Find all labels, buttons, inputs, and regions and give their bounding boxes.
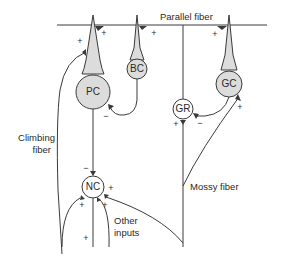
mf-gr-synapse-icon bbox=[180, 120, 186, 125]
sign-bc-pc: − bbox=[103, 111, 108, 121]
climbing-fiber-collateral-nc bbox=[62, 198, 80, 247]
sign-gc-gr: − bbox=[197, 118, 202, 128]
sign-cf-pc: + bbox=[77, 36, 82, 46]
purkinje-dendrite bbox=[82, 15, 104, 74]
pc-label: PC bbox=[86, 86, 100, 97]
sign-pc-nc: − bbox=[83, 163, 88, 173]
sign-mf-nc: + bbox=[108, 183, 113, 193]
basket-axon bbox=[110, 79, 137, 115]
climbing-fiber-label-2: fiber bbox=[33, 144, 51, 155]
sign-pf-pc: + bbox=[101, 28, 106, 38]
bc-label: BC bbox=[130, 63, 144, 74]
sign-mf-gr: + bbox=[173, 119, 178, 129]
cf-pc-synapse-icon bbox=[82, 49, 86, 56]
climbing-fiber-label-1: Climbing bbox=[18, 132, 55, 143]
sign-input-bottom: + bbox=[83, 233, 88, 243]
basket-cell: BC bbox=[108, 15, 147, 115]
granule-cell: GR bbox=[173, 25, 193, 119]
pf-gc-synapse-icon bbox=[217, 26, 227, 30]
nuclear-cell: NC bbox=[80, 171, 109, 202]
other-inputs-label-2: inputs bbox=[114, 227, 140, 238]
basket-dendrite bbox=[130, 15, 144, 60]
gc-label: GC bbox=[222, 78, 237, 89]
sign-pf-gc: + bbox=[212, 29, 217, 39]
pf-bc-synapse-icon bbox=[139, 26, 147, 30]
nc-label: NC bbox=[86, 181, 100, 192]
sign-mf-gc: + bbox=[237, 102, 242, 112]
cerebellar-circuit-diagram: Parallel fiber PC + + Climbing fiber BC … bbox=[0, 0, 281, 257]
mossy-fiber-label: Mossy fiber bbox=[190, 181, 239, 192]
golgi-axon bbox=[196, 97, 229, 116]
parallel-fiber-label: Parallel fiber bbox=[160, 11, 213, 22]
pc-nc-synapse-icon bbox=[90, 171, 96, 176]
sign-pf-bc: + bbox=[151, 28, 156, 38]
sign-cf-nc: + bbox=[79, 200, 84, 210]
cf-nc-synapse-icon bbox=[80, 195, 85, 200]
other-inputs-label-1: Other bbox=[114, 215, 138, 226]
golgi-dendrite bbox=[221, 15, 237, 70]
gr-label: GR bbox=[176, 103, 191, 114]
